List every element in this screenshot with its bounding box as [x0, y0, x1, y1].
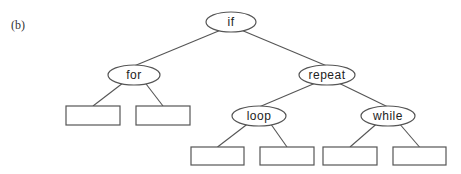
edge-if-to-for: [134, 31, 220, 67]
tree-node-for-l: [66, 106, 120, 125]
tree-node-loop-r: [260, 147, 314, 165]
panel-label: (b): [11, 18, 25, 32]
leaf-box: [136, 106, 190, 125]
tree-node-while-l: [323, 147, 377, 165]
edge-if-to-repeat: [242, 31, 327, 67]
tree-node-loop-l: [191, 147, 244, 165]
edge-for-to-for_l: [93, 84, 122, 107]
edge-while-to-while_l: [350, 125, 376, 148]
edges-group: [93, 31, 420, 148]
tree-node-if: if: [206, 12, 256, 32]
node-label: while: [372, 109, 403, 123]
tree-node-while: while: [361, 106, 415, 126]
leaf-box: [260, 147, 314, 165]
edge-while-to-while_r: [400, 125, 419, 148]
leaf-box: [66, 106, 120, 125]
tree-node-while-r: [393, 147, 446, 165]
node-label: for: [126, 68, 142, 82]
leaf-box: [323, 147, 377, 165]
edge-repeat-to-loop: [259, 84, 314, 108]
node-label: if: [228, 15, 235, 29]
edge-for-to-for_r: [146, 84, 163, 107]
tree-diagram: (b) ifforrepeatloopwhile: [0, 0, 461, 174]
node-label: loop: [247, 109, 272, 123]
node-label: repeat: [308, 68, 345, 82]
edge-loop-to-loop_l: [218, 125, 247, 148]
tree-node-repeat: repeat: [299, 65, 355, 85]
tree-node-for: for: [108, 65, 160, 85]
edge-repeat-to-while: [340, 84, 388, 108]
leaf-box: [191, 147, 244, 165]
edge-loop-to-loop_r: [271, 125, 287, 148]
leaf-box: [393, 147, 446, 165]
nodes-group: ifforrepeatloopwhile: [66, 12, 446, 165]
tree-node-for-r: [136, 106, 190, 125]
tree-node-loop: loop: [232, 106, 286, 126]
